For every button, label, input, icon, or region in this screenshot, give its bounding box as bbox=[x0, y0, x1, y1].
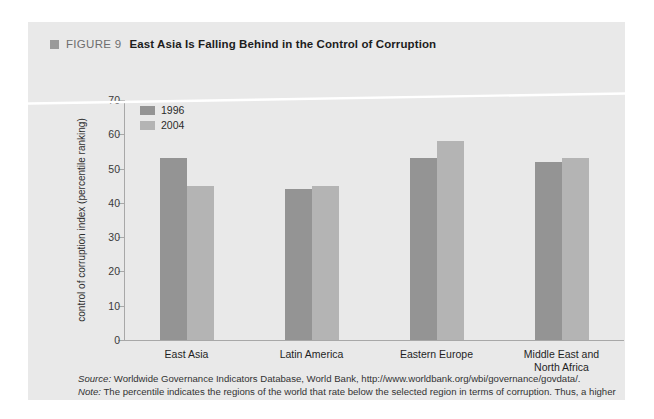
figure-footnotes: Source: Worldwide Governance Indicators … bbox=[78, 372, 625, 400]
source-line: Source: Worldwide Governance Indicators … bbox=[78, 372, 625, 385]
y-tick-label: 70 bbox=[108, 94, 120, 106]
y-tick-label: 0 bbox=[114, 334, 120, 346]
y-tick-label: 50 bbox=[108, 163, 120, 175]
bar-group bbox=[410, 100, 464, 340]
y-tick-label: 40 bbox=[108, 197, 120, 209]
bar-1996[interactable] bbox=[535, 162, 562, 340]
figure-number: FIGURE 9 bbox=[66, 38, 121, 50]
figure-header: FIGURE 9 East Asia Is Falling Behind in … bbox=[50, 38, 436, 50]
bar-2004[interactable] bbox=[187, 186, 214, 340]
y-axis-line bbox=[124, 100, 125, 340]
plot-area: 010203040506070 East AsiaLatin AmericaEa… bbox=[124, 100, 624, 340]
note-lead: Note: bbox=[78, 386, 101, 397]
x-axis-line bbox=[124, 340, 624, 341]
bar-group bbox=[535, 100, 589, 340]
source-text: Worldwide Governance Indicators Database… bbox=[111, 373, 580, 384]
y-tick-label: 10 bbox=[108, 300, 120, 312]
note-text: The percentile indicates the regions of … bbox=[78, 386, 616, 400]
figure-title: East Asia Is Falling Behind in the Contr… bbox=[129, 38, 436, 50]
category-label: Middle East andNorth Africa bbox=[482, 348, 626, 374]
source-lead: Source: bbox=[78, 373, 111, 384]
y-tick-label: 60 bbox=[108, 128, 120, 140]
bar-group bbox=[160, 100, 214, 340]
bar-1996[interactable] bbox=[410, 158, 437, 340]
bar-2004[interactable] bbox=[312, 186, 339, 340]
figure-panel: FIGURE 9 East Asia Is Falling Behind in … bbox=[28, 22, 625, 400]
y-tick-label: 20 bbox=[108, 265, 120, 277]
category-label-line: Middle East and bbox=[482, 348, 626, 361]
bar-1996[interactable] bbox=[160, 158, 187, 340]
y-tick-label: 30 bbox=[108, 231, 120, 243]
bar-2004[interactable] bbox=[562, 158, 589, 340]
note-line: Note: The percentile indicates the regio… bbox=[78, 385, 625, 400]
bar-1996[interactable] bbox=[285, 189, 312, 340]
bar-group bbox=[285, 100, 339, 340]
square-marker-icon bbox=[50, 40, 59, 49]
y-axis-title: control of corruption index (percentile … bbox=[75, 100, 89, 340]
bar-2004[interactable] bbox=[437, 141, 464, 340]
